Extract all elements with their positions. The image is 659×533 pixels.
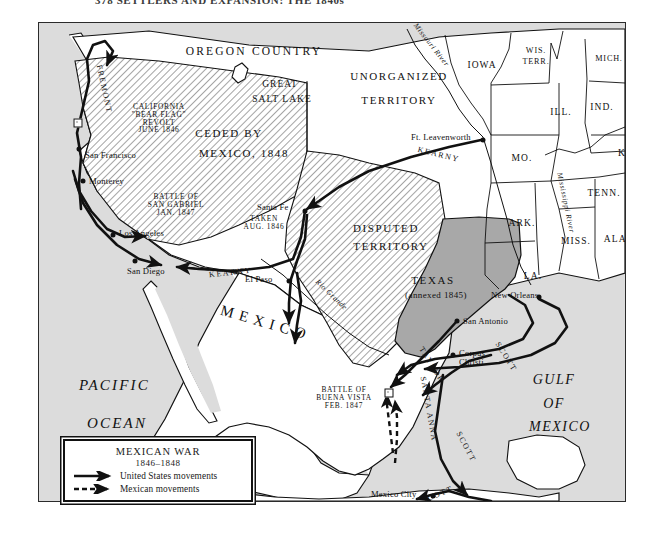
city-label-santa-fe: Santa Fe [257, 203, 288, 212]
city-marker-santa-fe [303, 209, 308, 214]
territory-label: CEDED BY [195, 128, 263, 140]
city-marker-los-angeles [111, 233, 116, 238]
state-label: IND. [590, 103, 614, 113]
region-texas [395, 217, 521, 357]
event-line: FEB. 1847 [316, 402, 372, 410]
route-coast-sandiego [75, 179, 161, 265]
state-label: ILL. [550, 108, 572, 118]
state-label: ARK. [509, 219, 536, 229]
event-annotation-santa-fe-taken: TAKEN AUG. 1846 [244, 215, 285, 231]
city-label-san-francisco: San Francisco [85, 151, 136, 160]
solid-arrow-icon [73, 471, 117, 481]
city-label-san-diego: San Diego [127, 267, 165, 276]
territory-label-texas: TEXAS [411, 275, 454, 287]
route-kearny-west [307, 140, 481, 209]
city-marker-corpus-christi [451, 353, 456, 358]
city-label-los-angeles: Los Angeles [119, 229, 164, 238]
lake-label-great-salt-lake: SALT LAKE [252, 95, 311, 105]
legend-title: MEXICAN WAR [65, 446, 251, 457]
city-label-el-paso: El Paso [245, 275, 272, 284]
event-line: AUG. 1846 [244, 223, 285, 231]
rio-grande [261, 259, 389, 355]
event-line: JAN. 1847 [148, 209, 204, 217]
ohio-river [545, 127, 625, 155]
territory-label: OREGON COUNTRY [186, 45, 323, 57]
dashed-arrow-icon [73, 484, 117, 494]
lake-label-great-salt-lake: GREAT [262, 80, 298, 90]
state-label: IOWA [467, 61, 496, 71]
city-marker-san-diego [133, 259, 138, 264]
state-label: KY. [618, 149, 626, 159]
river-label-mississippi: Mississippi River [555, 172, 575, 234]
territory-label: TERRITORY [361, 95, 436, 107]
city-label-new-orleans: New Orleans [491, 291, 538, 300]
map-canvas: OREGON COUNTRY UNORGANIZED TERRITORY CED… [38, 22, 626, 502]
route-santa-anna-2 [395, 401, 397, 463]
event-annotation-san-gabriel: BATTLE OF SAN GABRIEL JAN. 1847 [148, 193, 204, 216]
us-body [73, 29, 625, 323]
route-label-santa-anna: SANTA ANNA [418, 376, 438, 443]
river-label-rio-grande: Rio Grande [314, 278, 349, 312]
gulf-label: GULF [533, 373, 576, 388]
state-label: MICH. [595, 55, 622, 64]
legend-years: 1846–1848 [65, 458, 251, 468]
legend-entry-label: United States movements [120, 471, 217, 481]
territory-label: MEXICO, 1848 [199, 148, 289, 160]
route-kearny-santafe-sd [177, 211, 305, 271]
baja-peninsula [143, 281, 217, 423]
legend-entry-mexican-movements: Mexican movements [73, 484, 251, 494]
great-salt-lake [232, 63, 248, 83]
running-head: 378 SETTLERS AND EXPANSION: THE 1840s [0, 0, 659, 11]
gulf-label: MEXICO [529, 420, 591, 435]
event-annotation-bear-flag-revolt: CALIFORNIA "BEAR FLAG" REVOLT JUNE 1846 [132, 103, 187, 134]
city-label-ft-leavenworth: Ft. Leavenworth [411, 133, 471, 142]
state-label: MISS. [561, 237, 591, 247]
route-label-scott: SCOTT [454, 431, 477, 464]
route-label-fremont: FREMONT [94, 64, 112, 114]
route-label-scott: SCOTT [421, 485, 455, 502]
state-label: MO. [512, 154, 533, 164]
ocean-label-pacific: PACIFIC [79, 378, 150, 394]
city-marker-el-paso [287, 279, 292, 284]
state-label: TENN. [587, 189, 620, 199]
route-label-kearny: KEARNY [417, 146, 461, 165]
running-head-text: 378 SETTLERS AND EXPANSION: THE 1840s [95, 0, 344, 6]
city-label-mexico-city: Mexico City [371, 490, 416, 499]
gulf-label: OF [543, 397, 565, 412]
city-marker-monterey [81, 179, 86, 184]
missouri-river [407, 29, 483, 137]
river-label-missouri: Missouri River [412, 22, 450, 68]
battle-marker-bear-flag-revolt [74, 119, 83, 128]
route-doniphan [289, 215, 307, 323]
state-label: ALA. [604, 235, 626, 245]
event-annotation-buena-vista: BATTLE OF BUENA VISTA FEB. 1847 [316, 386, 372, 409]
gulf-of-california [155, 281, 221, 413]
city-label-san-antonio: San Antonio [463, 317, 508, 326]
region-disputed-territory [285, 151, 445, 367]
state-label: TERR. [523, 58, 550, 67]
city-marker-san-francisco [77, 147, 82, 152]
territory-label: TERRITORY [353, 241, 428, 253]
territory-label: DISPUTED [353, 223, 419, 235]
country-label-mexico: M E X I C O [219, 303, 309, 343]
state-label: LA. [524, 272, 542, 282]
territory-label: UNORGANIZED [350, 71, 448, 83]
city-marker-ft-leavenworth [481, 138, 486, 143]
event-line: JUNE 1846 [132, 126, 187, 134]
map-legend: MEXICAN WAR 1846–1848 United States move… [63, 439, 253, 502]
territory-label-texas-annexed: (annexed 1845) [405, 291, 467, 300]
yucatan-peninsula [507, 435, 585, 489]
ocean-label-pacific: OCEAN [87, 416, 147, 432]
legend-entry-label: Mexican movements [120, 484, 199, 494]
page-root: 378 SETTLERS AND EXPANSION: THE 1840s [0, 0, 659, 533]
city-label-monterey: Monterey [89, 177, 124, 186]
route-santa-anna [387, 395, 393, 453]
state-label: WIS. [526, 47, 546, 56]
legend-entry-us-movements: United States movements [73, 471, 251, 481]
battle-marker-buena-vista [385, 389, 394, 398]
city-marker-san-antonio [455, 319, 460, 324]
